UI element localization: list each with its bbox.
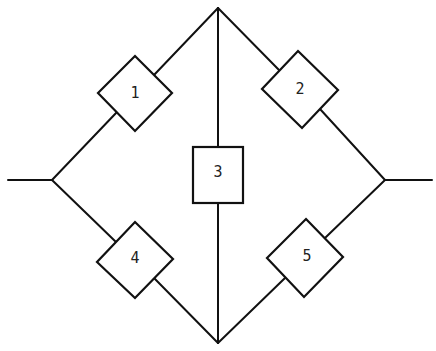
wire-1-to-top: [154, 8, 218, 75]
wire-4-to-bottom: [154, 278, 218, 343]
component-1-label: 1: [130, 84, 139, 102]
component-3: 3: [193, 147, 243, 203]
component-3-label: 3: [213, 163, 222, 181]
wire-5-to-right: [325, 180, 385, 238]
wire-top-to-2: [218, 8, 279, 70]
wire-left-to-1: [52, 112, 117, 180]
component-5-label: 5: [302, 247, 311, 265]
bridge-network-diagram: 1 2 3 4 5: [0, 0, 436, 351]
wire-left-to-4: [52, 180, 116, 242]
component-2-label: 2: [295, 80, 304, 98]
component-4-label: 4: [130, 249, 139, 267]
wire-bottom-to-5: [218, 278, 285, 343]
wire-2-to-right: [320, 109, 385, 180]
